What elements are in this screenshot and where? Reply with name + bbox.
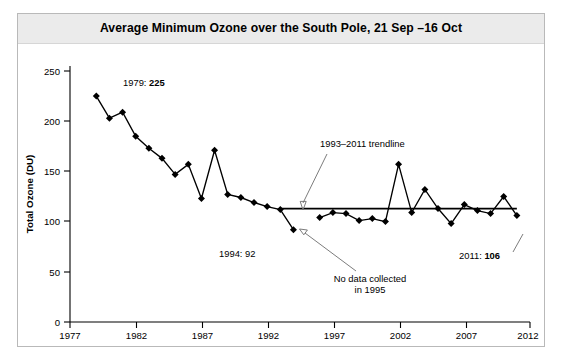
x-tick-label-1977: 1977 [59,330,80,341]
x-tick-label-2007: 2007 [456,330,477,341]
x-axis-title: Year [290,345,311,347]
x-tick-label-1987: 1987 [192,330,213,341]
data-point-marker[interactable] [277,206,284,213]
y-tick-label-0: 0 [55,317,60,328]
data-point-marker[interactable] [251,199,258,206]
annotation-no-data-line1: No data collected [334,273,406,284]
x-tick-label-1982: 1982 [126,330,147,341]
x-tick-label-2012: 2012 [517,330,538,341]
annotation-no-data: No data collected in 1995 [300,229,407,295]
y-tick-label-100: 100 [44,216,60,227]
annotation-2011-value: 106 [484,250,500,261]
annotation-no-data-leader [305,233,356,271]
annotation-first-point: 1979: 225 [123,77,165,88]
annotation-2011-leader [513,234,523,252]
data-point-marker[interactable] [224,191,231,198]
x-tick-label-1992: 1992 [258,330,279,341]
data-series-layer [93,93,521,234]
annotation-2011-label: 2011: 106 [459,250,500,261]
y-tick-label-50: 50 [49,267,60,278]
y-tick-label-250: 250 [44,66,60,77]
y-tick-label-150: 150 [44,166,60,177]
plot-area: 250 200 150 100 50 0 Total Ozone (DU) 19… [18,44,546,347]
annotation-1979-label: 1979: 225 [123,77,165,88]
annotation-1979-value: 225 [149,77,165,88]
data-point-marker[interactable] [408,209,415,216]
annotation-no-data-line2: in 1995 [355,284,386,295]
data-point-marker[interactable] [264,203,271,210]
y-tick-label-200: 200 [44,116,60,127]
annotation-1994-value: 92 [245,248,255,259]
data-point-marker[interactable] [369,215,376,222]
annotation-last-point: 2011: 106 [459,234,523,261]
data-point-marker[interactable] [395,161,402,168]
x-tick-label-2002: 2002 [390,330,411,341]
data-point-marker[interactable] [237,194,244,201]
data-point-marker[interactable] [356,217,363,224]
page-title: Average Minimum Ozone over the South Pol… [18,21,544,35]
data-point-marker[interactable] [106,115,113,122]
annotation-trendline-leader [303,154,327,203]
data-point-marker[interactable] [290,226,297,233]
annotation-minimum-point: 1994: 92 [219,248,256,259]
ozone-line-chart: 250 200 150 100 50 0 Total Ozone (DU) 19… [18,44,546,347]
data-point-marker[interactable] [329,209,336,216]
data-point-marker[interactable] [119,109,126,116]
annotation-trendline: 1993–2011 trendline [300,138,405,210]
data-point-marker[interactable] [382,218,389,225]
data-point-marker[interactable] [343,210,350,217]
annotation-1994-prefix: 1994: [219,248,245,259]
annotation-2011-prefix: 2011: [459,250,484,261]
x-tick-label-1997: 1997 [324,330,345,341]
annotation-trendline-label: 1993–2011 trendline [320,138,405,149]
y-axis: 250 200 150 100 50 0 Total Ozone (DU) [24,66,70,328]
data-point-marker[interactable] [198,195,205,202]
data-point-marker[interactable] [211,147,218,154]
series-line-segment [320,164,517,223]
chart-frame: Average Minimum Ozone over the South Pol… [17,13,545,347]
y-axis-title: Total Ozone (DU) [24,155,35,234]
annotation-1994-label: 1994: 92 [219,248,256,259]
data-point-marker[interactable] [316,214,323,221]
data-point-marker[interactable] [93,93,100,100]
series-line-segment [96,96,293,230]
annotation-1979-prefix: 1979: [123,77,149,88]
x-axis: 1977 1982 1987 1992 1997 2002 2007 2012 [59,322,538,341]
